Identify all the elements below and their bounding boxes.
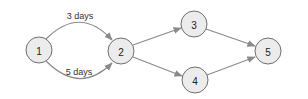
network-diagram: 3 days 5 days 1 2 3 4 5 — [0, 0, 308, 99]
node-4-label: 4 — [192, 76, 198, 87]
edge-2-3-arrow — [133, 28, 181, 45]
node-2-label: 2 — [118, 47, 124, 58]
edge-2-4-arrow — [133, 57, 182, 76]
node-4: 4 — [182, 67, 208, 93]
node-1: 1 — [26, 37, 52, 63]
node-2: 2 — [108, 38, 134, 64]
node-3-label: 3 — [191, 20, 197, 31]
edge-4-5-arrow — [207, 57, 255, 75]
node-3: 3 — [181, 11, 207, 37]
edge-1-2-top-arrow — [46, 22, 112, 40]
node-5: 5 — [255, 38, 281, 64]
node-1-label: 1 — [36, 46, 42, 57]
edge-label-3-days: 3 days — [67, 11, 94, 21]
node-5-label: 5 — [265, 47, 271, 58]
edge-3-5-arrow — [206, 29, 255, 46]
edge-label-5-days: 5 days — [66, 67, 93, 77]
